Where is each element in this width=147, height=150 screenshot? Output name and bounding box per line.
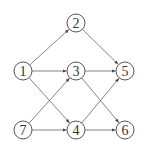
- node-label: 3: [73, 64, 80, 79]
- node-label: 4: [73, 123, 80, 138]
- node-3: 3: [67, 62, 85, 80]
- node-label: 1: [20, 64, 27, 79]
- node-label: 7: [20, 123, 27, 138]
- node-label: 6: [122, 123, 129, 138]
- node-7: 7: [14, 121, 32, 139]
- node-4: 4: [67, 121, 85, 139]
- node-label: 5: [122, 64, 129, 79]
- graph-canvas: 1234567: [0, 0, 147, 150]
- node-5: 5: [116, 62, 134, 80]
- node-label: 2: [73, 16, 80, 31]
- node-2: 2: [67, 14, 85, 32]
- node-6: 6: [116, 121, 134, 139]
- edge-1-to-2: [30, 29, 69, 65]
- node-1: 1: [14, 62, 32, 80]
- edge-2-to-5: [82, 29, 118, 64]
